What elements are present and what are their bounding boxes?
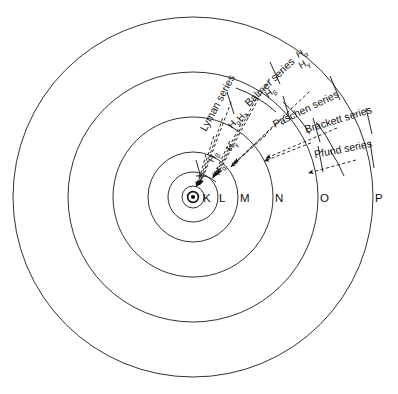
nucleus-dot — [191, 195, 195, 199]
figure-canvas: K L M N O P Lyman series Balmer series P… — [0, 0, 398, 394]
bracket-tick-lyman-left — [196, 160, 202, 181]
shell-label-n: N — [275, 192, 283, 204]
transition-pfund-alpha — [309, 160, 357, 173]
transition-balmer-gamma — [216, 99, 256, 176]
series-labels-group: Lyman series Balmer series Paschen serie… — [197, 55, 373, 160]
shell-labels-group: K L M N O P — [203, 192, 383, 204]
shell-label-p: P — [375, 192, 383, 204]
bohr-model-diagram: K L M N O P Lyman series Balmer series P… — [0, 0, 398, 394]
shell-label-m: M — [240, 192, 250, 204]
shell-label-l: L — [219, 192, 226, 204]
transition-brackett-alpha — [264, 143, 311, 161]
series-label-balmer: Balmer series — [242, 55, 297, 108]
shell-label-k: K — [203, 192, 211, 204]
shell-label-o: O — [320, 192, 329, 204]
series-label-pfund: Pfund series — [313, 137, 373, 160]
nucleus-group — [188, 192, 199, 203]
pfund-transitions-group — [309, 160, 357, 173]
bracket-tick-balmer-left — [227, 92, 234, 114]
